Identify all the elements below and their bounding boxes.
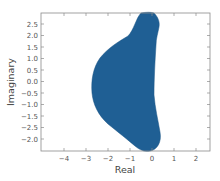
y-tick-label: 0.0 xyxy=(27,78,38,86)
x-tick-label: 2 xyxy=(194,155,198,163)
y-tick-label: −1.5 xyxy=(21,113,38,121)
y-tick-label: 2.5 xyxy=(27,21,38,29)
y-tick-label: 2.0 xyxy=(27,32,38,40)
x-tick-label: 1 xyxy=(172,155,176,163)
y-tick-label: 1.0 xyxy=(27,55,38,63)
y-tick-label: −2.5 xyxy=(21,124,38,132)
x-tick-label: −3 xyxy=(81,155,91,163)
y-tick-labels: 2.5 2.0 1.5 1.0 0.5 0.0 −0.5 −1.0 −1.5 −… xyxy=(21,21,38,144)
y-tick-label: 1.5 xyxy=(27,44,38,52)
y-axis-label: Imaginary xyxy=(5,58,16,106)
filled-region xyxy=(92,12,161,151)
x-tick-label: −2 xyxy=(103,155,113,163)
y-tick-label: −2.0 xyxy=(21,136,38,144)
x-tick-labels: −4 −3 −2 −1 0 1 2 xyxy=(59,155,198,163)
y-tick-label: −1.0 xyxy=(21,101,38,109)
x-tick-label: −4 xyxy=(59,155,70,163)
y-tick-label: 0.5 xyxy=(27,67,38,75)
x-tick-label: 0 xyxy=(150,155,154,163)
chart-figure: −4 −3 −2 −1 0 1 2 2.5 2.0 1.5 1.0 0.5 0.… xyxy=(0,0,220,181)
x-tick-label: −1 xyxy=(125,155,135,163)
x-axis-label: Real xyxy=(115,164,135,175)
y-tick-label: −0.5 xyxy=(21,90,38,98)
